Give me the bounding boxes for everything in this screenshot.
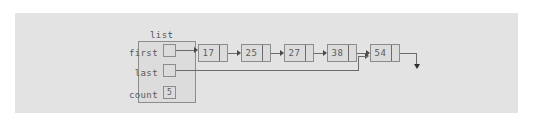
pointer-link-first-to-node1 xyxy=(176,50,194,51)
pointer-link-node5-to-null xyxy=(400,53,417,54)
struct-label-list: list xyxy=(150,30,173,40)
arrowhead-icon xyxy=(323,50,327,56)
node-value: 25 xyxy=(241,44,262,62)
node-divider xyxy=(219,45,220,61)
node-divider xyxy=(305,45,306,61)
pointer-link-last-vertical xyxy=(358,56,359,71)
node-divider xyxy=(391,45,392,61)
node-value: 17 xyxy=(198,44,219,62)
diagram-panel: list first last count 5 17 25 27 38 54 xyxy=(15,13,518,113)
field-pointer-cell-last xyxy=(163,64,176,77)
field-label-last: last xyxy=(122,67,158,79)
linked-list-diagram-screenshot: list first last count 5 17 25 27 38 54 xyxy=(0,0,533,126)
arrowhead-icon xyxy=(194,47,198,53)
node-value: 38 xyxy=(327,44,348,62)
field-pointer-cell-first xyxy=(163,44,176,57)
pointer-link-node3-to-node4 xyxy=(314,53,323,54)
node-divider xyxy=(262,45,263,61)
field-value-count: 5 xyxy=(163,87,176,98)
field-label-count: count xyxy=(116,89,158,101)
node-value: 54 xyxy=(370,44,391,62)
node-divider xyxy=(348,45,349,61)
arrowhead-icon xyxy=(280,50,284,56)
pointer-link-node1-to-node2 xyxy=(228,53,237,54)
node-value: 27 xyxy=(284,44,305,62)
field-label-first: first xyxy=(122,47,158,59)
pointer-link-last-horizontal xyxy=(176,70,358,71)
null-terminator-arrow-icon xyxy=(414,64,420,69)
pointer-link-node2-to-node3 xyxy=(271,53,280,54)
pointer-link-last-into-node5 xyxy=(358,56,368,57)
arrowhead-icon xyxy=(237,50,241,56)
